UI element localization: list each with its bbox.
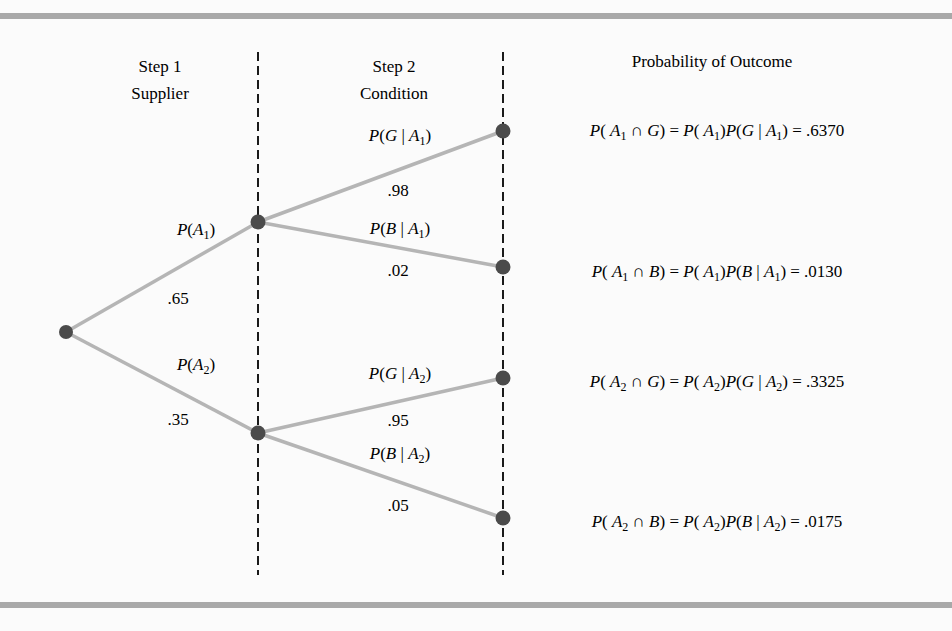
node-a2 bbox=[251, 426, 266, 441]
step2-title: Step 2 bbox=[373, 57, 416, 76]
root-node bbox=[59, 325, 73, 339]
step1-title: Step 1 bbox=[139, 57, 182, 76]
leaf-node-a2-b bbox=[496, 511, 511, 526]
outcome-formulas: P( A1 ∩ G) = P( A1)P(G | A1) = .6370P( A… bbox=[589, 121, 845, 534]
branch-label-b-given-a2: P(B | A2) bbox=[369, 444, 430, 466]
branch-prob-g-given-a1: .98 bbox=[387, 181, 408, 200]
node-a1 bbox=[251, 215, 266, 230]
branch-prob-g-given-a2: .95 bbox=[387, 411, 408, 430]
branch-label-g-given-a2: P(G | A2) bbox=[368, 364, 431, 386]
leaf-node-a1-b bbox=[496, 260, 511, 275]
branch-prob-a1: .65 bbox=[167, 289, 188, 308]
outcome-formula-4: P( A2 ∩ B) = P( A2)P(B | A2) = .0175 bbox=[591, 512, 843, 534]
step1-subtitle: Supplier bbox=[131, 84, 189, 103]
branch-prob-b-given-a2: .05 bbox=[387, 496, 408, 515]
edge-a2-g bbox=[258, 378, 503, 433]
outcome-formula-3: P( A2 ∩ G) = P( A2)P(G | A2) = .3325 bbox=[589, 372, 845, 394]
outcome-formula-2: P( A1 ∩ B) = P( A1)P(B | A1) = .0130 bbox=[591, 262, 843, 284]
tree-nodes bbox=[59, 124, 511, 526]
branch-prob-a2: .35 bbox=[167, 410, 188, 429]
branch-prob-b-given-a1: .02 bbox=[387, 261, 408, 280]
tree-edges bbox=[66, 131, 503, 518]
tree-diagram: Step 1 Supplier Step 2 Condition Probabi… bbox=[0, 0, 952, 631]
branch-label-g-given-a1: P(G | A1) bbox=[368, 126, 431, 148]
branch-label-b-given-a1: P(B | A1) bbox=[369, 219, 430, 241]
leaf-node-a1-g bbox=[496, 124, 511, 139]
step2-subtitle: Condition bbox=[360, 84, 429, 103]
outcome-title: Probability of Outcome bbox=[632, 52, 793, 71]
diagram-frame: Step 1 Supplier Step 2 Condition Probabi… bbox=[0, 0, 952, 631]
branch-labels: P(A1).65P(A2).35P(G | A1).98P(B | A1).02… bbox=[167, 126, 431, 515]
edge-root-a1 bbox=[66, 222, 258, 332]
edge-root-a2 bbox=[66, 332, 258, 433]
branch-label-a2: P(A2) bbox=[176, 355, 215, 377]
branch-label-a1: P(A1) bbox=[176, 220, 215, 242]
outcome-formula-1: P( A1 ∩ G) = P( A1)P(G | A1) = .6370 bbox=[589, 121, 845, 143]
leaf-node-a2-g bbox=[496, 371, 511, 386]
